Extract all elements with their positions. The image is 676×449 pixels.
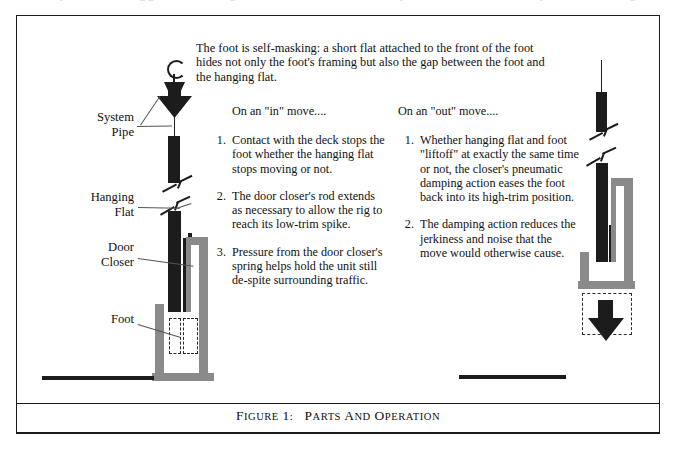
step-text: Contact with the deck stops the foot whe… [232,133,385,176]
caption-rule-top [17,403,659,404]
list-item: 3. Pressure from the door closer's sprin… [210,245,386,288]
out-move-heading: On an "out" move.... [398,104,580,118]
caption-rule-bottom [17,432,659,433]
step-text: Pressure from the door closer's spring h… [232,245,382,288]
caption-title: PARTS AND OPERATION [305,408,441,423]
step-number: 1. [398,133,414,147]
in-move-column: On an "in" move.... 1. Contact with the … [210,104,386,301]
cut-off-text-row: pg g gp pg [0,0,676,10]
list-item: 1. Contact with the deck stops the foot … [210,133,386,176]
step-text: The door closer's rod extends as necessa… [232,189,382,232]
hook-stem [173,74,175,83]
label-line-2: Closer [101,255,134,269]
foot-upper-interior [191,245,199,315]
list-item: 2. The damping action reduces the jerkin… [398,217,580,260]
step-text: Whether hanging flat and foot "liftoff" … [420,133,579,204]
caption-prefix: FIGURE [236,408,279,423]
step-text: The damping action reduces the jerkiness… [420,217,576,260]
label-line-2: Flat [114,205,134,219]
in-move-heading: On an "in" move.... [210,104,386,118]
label-line-1: System [97,110,134,124]
in-move-step-list: 1. Contact with the deck stops the foot … [210,133,386,288]
right-foot-interior [616,186,624,264]
right-break-mark-upper [589,126,619,142]
foot-channel-right-wall [199,237,208,381]
step-number: 1. [210,133,226,147]
out-move-column: On an "out" move.... 1. Whether hanging … [398,104,580,273]
label-line-1: Door [108,240,134,254]
right-pipe-thin [601,60,602,94]
hanging-flat-upper [168,136,180,183]
floor-line-left [42,376,154,380]
label-line-2: Pipe [112,125,134,139]
caption-number: 1: [283,408,294,423]
step-number: 3. [210,245,226,259]
right-foot-interior-2 [589,262,624,281]
intro-paragraph: The foot is self-masking: a short flat a… [196,41,556,84]
step-number: 2. [398,217,414,231]
foot-base-plate [152,373,214,381]
step-number: 2. [210,189,226,203]
right-foot-base-plate [578,281,635,289]
system-pipe-thin [174,117,176,137]
figure-caption: FIGURE 1: PARTS AND OPERATION [17,408,659,424]
list-item: 2. The door closer's rod extends as nece… [210,189,386,232]
label-line-1: Foot [111,312,134,326]
list-item: 1. Whether hanging flat and foot "liftof… [398,133,580,204]
hook-ring-icon [167,60,186,79]
label-line-1: Hanging [91,190,134,204]
foot-front-flat [155,304,164,381]
out-move-step-list: 1. Whether hanging flat and foot "liftof… [398,133,580,260]
right-foot-channel-right-wall [624,178,633,288]
break-mark-upper [162,178,192,194]
floor-line-right [459,375,566,379]
travel-ghost-right [183,318,198,354]
